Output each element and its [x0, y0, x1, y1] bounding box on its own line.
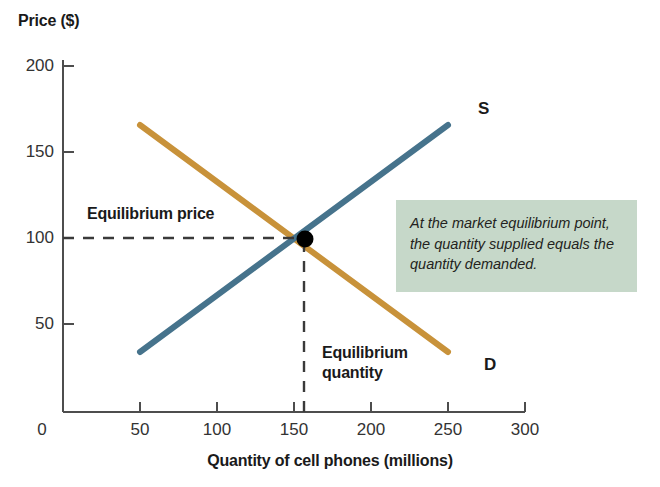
- demand-curve-label: D: [484, 355, 496, 375]
- y-tick-label-50: 50: [8, 314, 54, 334]
- x-tick-label-50: 50: [110, 420, 170, 440]
- x-tick-label-100: 100: [187, 420, 247, 440]
- x-tick-label-150: 150: [264, 420, 324, 440]
- callout-box: At the market equilibrium point, the qua…: [396, 200, 637, 292]
- supply-curve-label: S: [478, 99, 489, 119]
- equilibrium-quantity-line2: quantity: [322, 363, 408, 383]
- supply-demand-chart: Price ($) Quantity of cell phones (milli…: [0, 0, 660, 487]
- x-tick-label-250: 250: [418, 420, 478, 440]
- x-tick-label-0: 0: [12, 420, 72, 440]
- y-tick-label-100: 100: [8, 228, 54, 248]
- equilibrium-price-label: Equilibrium price: [87, 204, 214, 224]
- equilibrium-quantity-label: Equilibrium quantity: [322, 343, 408, 382]
- y-tick-label-200: 200: [8, 56, 54, 76]
- y-tick-label-150: 150: [8, 142, 54, 162]
- x-tick-label-300: 300: [495, 420, 555, 440]
- callout-text: At the market equilibrium point, the qua…: [410, 213, 625, 275]
- x-tick-label-200: 200: [341, 420, 401, 440]
- equilibrium-quantity-line1: Equilibrium: [322, 343, 408, 363]
- equilibrium-point: [297, 231, 314, 248]
